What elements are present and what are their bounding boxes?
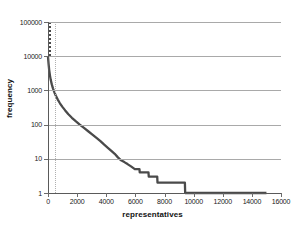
x-tick-mark — [252, 193, 253, 197]
data-curve — [48, 22, 281, 193]
y-axis-line — [48, 22, 49, 194]
y-tick-mark — [44, 159, 48, 160]
x-tick-mark — [194, 193, 195, 197]
gridline-y — [48, 159, 281, 160]
gridline-y — [48, 22, 281, 23]
y-tick-label: 10 — [3, 155, 42, 162]
gridline-y — [48, 90, 281, 91]
chart-container: 110100100010000100000 020004000600080001… — [0, 0, 305, 230]
x-tick-mark — [165, 193, 166, 197]
reference-line-dotted — [55, 22, 56, 193]
y-tick-label: 1 — [3, 190, 42, 197]
y-tick-mark — [44, 22, 48, 23]
x-tick-mark — [48, 193, 49, 197]
x-tick-mark — [77, 193, 78, 197]
x-axis-title: representatives — [0, 210, 305, 219]
y-tick-label: 10000 — [3, 53, 42, 60]
y-tick-label: 100000 — [3, 19, 42, 26]
gridline-y — [48, 125, 281, 126]
gridline-y — [48, 56, 281, 57]
y-tick-mark — [44, 193, 48, 194]
y-tick-mark — [44, 56, 48, 57]
y-axis-title: frequency — [5, 69, 14, 129]
x-tick-mark — [135, 193, 136, 197]
x-tick-mark — [281, 193, 282, 197]
x-tick-mark — [223, 193, 224, 197]
y-tick-mark — [44, 125, 48, 126]
y-tick-mark — [44, 90, 48, 91]
reference-line-dotted-top — [49, 22, 51, 56]
plot-area — [48, 22, 281, 193]
x-tick-mark — [106, 193, 107, 197]
x-tick-label: 16000 — [261, 198, 301, 205]
